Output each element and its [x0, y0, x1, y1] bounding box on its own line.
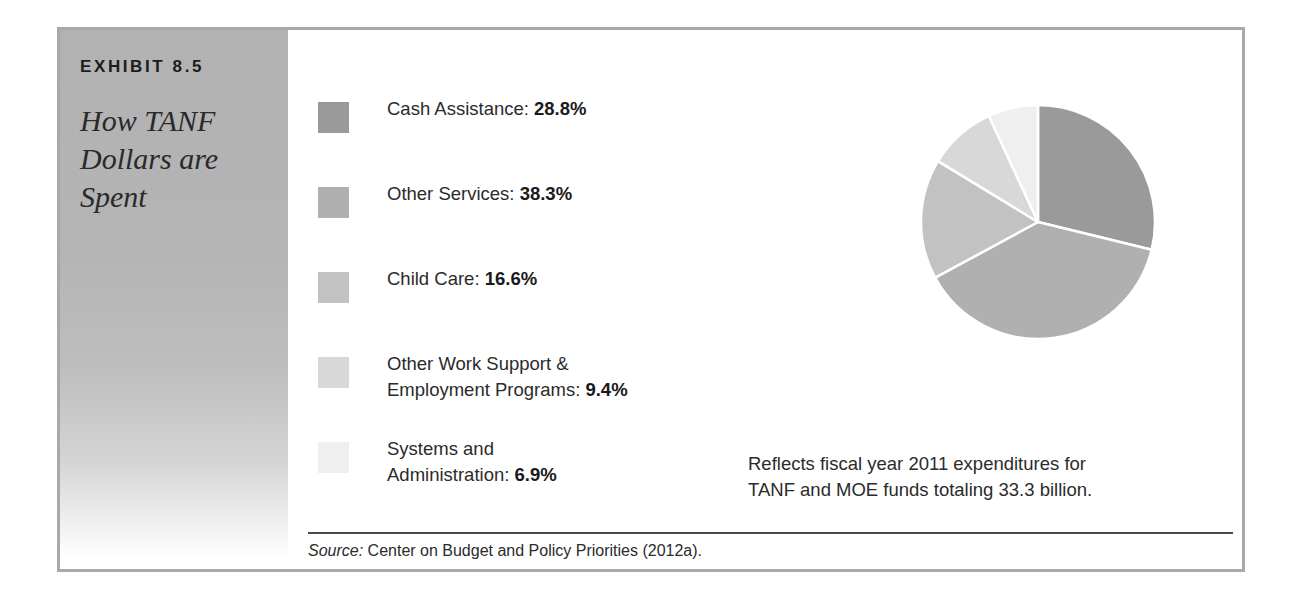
- exhibit-title: How TANF Dollars are Spent: [80, 102, 275, 216]
- source-label: Source:: [308, 542, 363, 559]
- legend-item-label: Other Work Support &Employment Programs:…: [387, 351, 677, 403]
- legend-swatch-icon: [318, 272, 349, 303]
- legend-swatch-icon: [318, 187, 349, 218]
- legend-item-value: 6.9%: [515, 464, 557, 485]
- legend-item-label: Other Services: 38.3%: [387, 181, 677, 207]
- source-divider: [308, 532, 1233, 534]
- legend-swatch-icon: [318, 357, 349, 388]
- source-reference: Center on Budget and Policy Priorities (…: [363, 542, 702, 559]
- legend-item: Other Services: 38.3%: [318, 175, 678, 260]
- legend-swatch-icon: [318, 102, 349, 133]
- legend-item-label: Systems andAdministration: 6.9%: [387, 436, 677, 488]
- legend-item-label: Cash Assistance: 28.8%: [387, 96, 677, 122]
- exhibit-frame: EXHIBIT 8.5 How TANF Dollars are Spent C…: [57, 27, 1245, 572]
- legend-item-value: 38.3%: [520, 183, 572, 204]
- legend-item-label: Child Care: 16.6%: [387, 266, 677, 292]
- legend-item: Child Care: 16.6%: [318, 260, 678, 345]
- legend-item-value: 9.4%: [585, 379, 627, 400]
- pie-chart-svg: [918, 102, 1158, 342]
- legend-swatch-icon: [318, 442, 349, 473]
- pie-note-line-1: Reflects fiscal year 2011 expenditures f…: [748, 453, 1086, 474]
- exhibit-number-label: EXHIBIT 8.5: [80, 57, 204, 77]
- exhibit-title-panel: EXHIBIT 8.5 How TANF Dollars are Spent: [60, 30, 288, 569]
- legend-item: Other Work Support &Employment Programs:…: [318, 345, 678, 430]
- pie-chart-annotation: Reflects fiscal year 2011 expenditures f…: [748, 451, 1228, 503]
- pie-note-line-2: TANF and MOE funds totaling 33.3 billion…: [748, 479, 1092, 500]
- source-citation: Source: Center on Budget and Policy Prio…: [308, 542, 702, 560]
- pie-chart: [918, 102, 1158, 342]
- legend-item-value: 16.6%: [485, 268, 537, 289]
- legend-item: Systems andAdministration: 6.9%: [318, 430, 678, 515]
- legend-item-value: 28.8%: [534, 98, 586, 119]
- chart-legend: Cash Assistance: 28.8%Other Services: 38…: [318, 90, 678, 515]
- legend-item: Cash Assistance: 28.8%: [318, 90, 678, 175]
